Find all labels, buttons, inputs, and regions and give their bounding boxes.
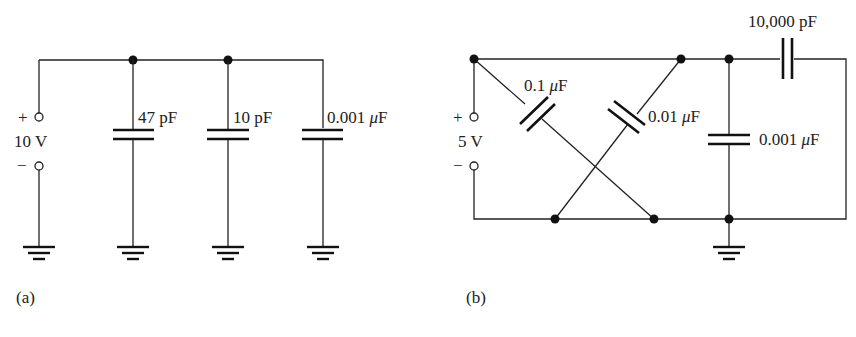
source-voltage-label: 5 V bbox=[458, 132, 483, 151]
capacitor-label-0.001uf: 0.001 μF bbox=[759, 130, 820, 149]
ground-icon bbox=[212, 247, 244, 259]
capacitor-icon bbox=[708, 135, 750, 144]
junction-node bbox=[677, 55, 686, 64]
terminal-plus-b bbox=[470, 113, 478, 121]
capacitor-label-0.001uf: 0.001 μF bbox=[327, 108, 388, 127]
circuit-diagram: + 10 V − 47 pF 10 pF 0.001 μF (a) bbox=[0, 0, 856, 337]
ground-icon bbox=[117, 247, 149, 259]
source-minus-label: − bbox=[17, 156, 27, 175]
caption-a: (a) bbox=[16, 288, 35, 307]
circuit-b: + 5 V − 0.1 μF 0.01 μF 0.001 μF 10,000 p… bbox=[453, 12, 846, 307]
capacitor-label-10000pf: 10,000 pF bbox=[748, 12, 817, 31]
junction-node bbox=[725, 215, 734, 224]
capacitor-label-47pf: 47 pF bbox=[138, 108, 177, 127]
ground-icon bbox=[307, 247, 339, 259]
ground-icon bbox=[23, 247, 55, 259]
ground-icon bbox=[713, 247, 745, 259]
capacitor-label-0.1uf: 0.1 μF bbox=[524, 76, 568, 95]
caption-b: (b) bbox=[466, 288, 486, 307]
capacitor-icon bbox=[783, 38, 792, 79]
capacitor-icon bbox=[302, 130, 343, 139]
source-plus-label: + bbox=[453, 108, 463, 127]
terminal-plus-a bbox=[35, 113, 43, 121]
top-rail-a bbox=[39, 60, 323, 128]
capacitor-icon bbox=[207, 130, 249, 139]
junction-node bbox=[551, 215, 560, 224]
capacitor-icon bbox=[113, 130, 154, 139]
junction-node bbox=[725, 55, 734, 64]
capacitor-label-0.01uf: 0.01 μF bbox=[648, 107, 700, 126]
capacitor-label-10pf: 10 pF bbox=[233, 108, 272, 127]
capacitor-icon bbox=[608, 101, 645, 133]
terminal-minus-b bbox=[470, 162, 478, 170]
source-minus-label: − bbox=[453, 156, 463, 175]
junction-node bbox=[650, 215, 659, 224]
terminal-minus-a bbox=[35, 162, 43, 170]
source-plus-label: + bbox=[18, 108, 28, 127]
circuit-a: + 10 V − 47 pF 10 pF 0.001 μF (a) bbox=[14, 56, 388, 308]
junction-node bbox=[470, 55, 479, 64]
source-voltage-label: 10 V bbox=[14, 132, 48, 151]
